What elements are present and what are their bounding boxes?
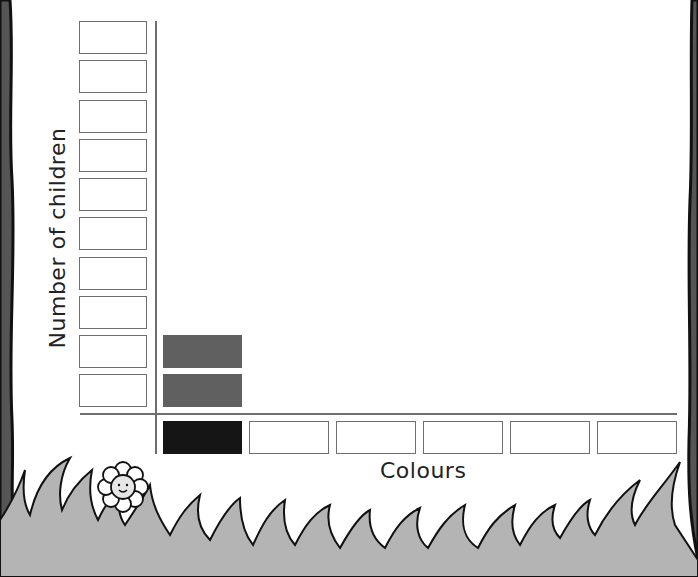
y-unit-box-2 xyxy=(79,335,147,368)
category-swatch-6 xyxy=(597,421,677,454)
y-axis-label: Number of children xyxy=(45,128,70,349)
category-swatch-4 xyxy=(423,421,503,454)
x-axis-label: Colours xyxy=(380,458,466,483)
y-unit-box-9 xyxy=(79,60,147,93)
y-unit-box-5 xyxy=(79,217,147,250)
y-unit-box-10 xyxy=(79,21,147,54)
category-swatch-1 xyxy=(163,421,242,454)
y-unit-box-6 xyxy=(79,178,147,211)
category-swatch-2 xyxy=(249,421,329,454)
y-axis-line xyxy=(155,21,157,454)
smiling-flower-icon xyxy=(98,462,148,512)
right-border xyxy=(689,0,698,560)
y-unit-box-3 xyxy=(79,296,147,329)
category-swatch-3 xyxy=(336,421,416,454)
bar-segment-1 xyxy=(163,374,242,407)
category-swatch-5 xyxy=(510,421,590,454)
bar-segment-2 xyxy=(163,335,242,368)
x-axis-line xyxy=(80,413,677,415)
left-border xyxy=(0,0,14,540)
y-unit-box-7 xyxy=(79,139,147,172)
y-unit-box-1 xyxy=(79,374,147,407)
y-unit-box-8 xyxy=(79,100,147,133)
y-unit-box-4 xyxy=(79,257,147,290)
